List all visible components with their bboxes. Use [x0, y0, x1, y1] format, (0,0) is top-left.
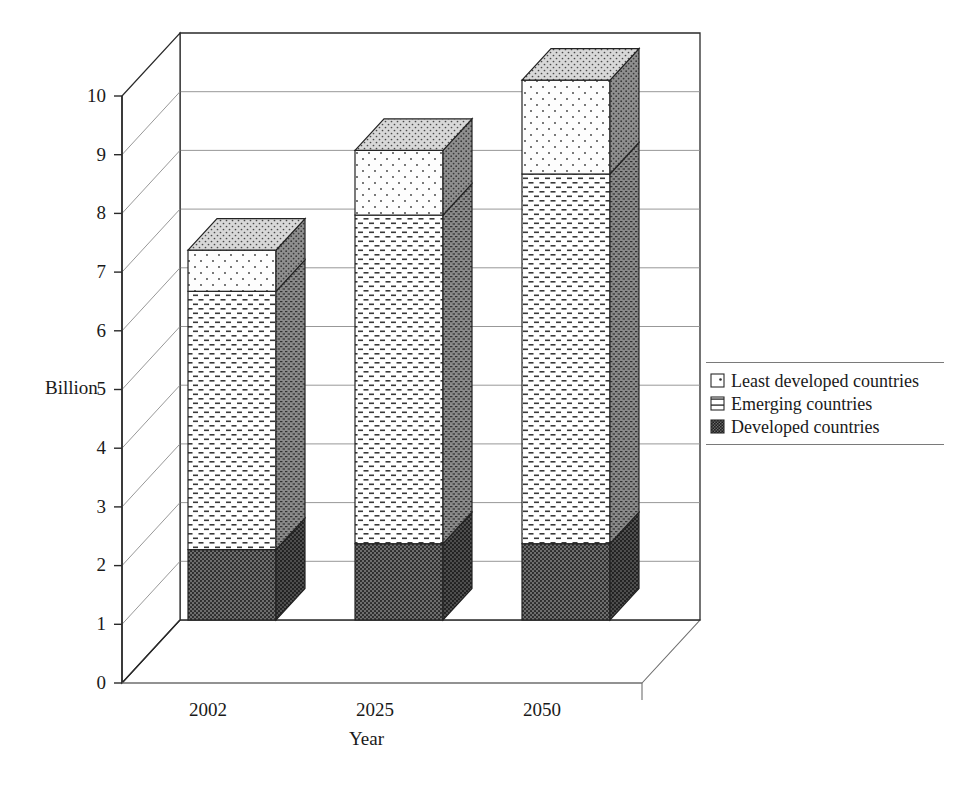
bar-2002-segment-developed[interactable] [188, 550, 276, 620]
chart-floor [122, 620, 700, 683]
bar-2002-segment-emerging-side [276, 260, 305, 550]
bar-2002[interactable] [188, 219, 305, 620]
y-tick-2: 2 [72, 554, 106, 576]
y-axis-title: Billion [45, 377, 98, 399]
y-tick-9: 9 [72, 144, 106, 166]
x-category-label-2050: 2050 [497, 699, 587, 721]
legend-label-emerging-countries: Emerging countries [731, 395, 872, 413]
bar-2025-segment-least-developed[interactable] [355, 150, 443, 215]
bar-2025-segment-emerging-side [443, 184, 472, 544]
legend-item-emerging-countries[interactable]: Emerging countries [706, 392, 944, 415]
bar-2025-segment-emerging[interactable] [355, 215, 443, 544]
y-tick-8: 8 [72, 202, 106, 224]
bar-2050-segment-emerging[interactable] [522, 174, 610, 544]
bar-2050[interactable] [522, 49, 639, 620]
bar-2050-segment-least-developed[interactable] [522, 80, 610, 174]
x-category-label-2002: 2002 [163, 699, 253, 721]
bar-2050-segment-emerging-side [610, 143, 639, 544]
y-tick-10: 10 [72, 85, 106, 107]
bar-2025[interactable] [355, 119, 472, 620]
y-axis [114, 96, 122, 683]
y-tick-7: 7 [72, 261, 106, 283]
x-axis [122, 683, 642, 700]
x-category-label-2025: 2025 [330, 699, 420, 721]
y-tick-1: 1 [72, 613, 106, 635]
legend-label-least-developed-countries: Least developed countries [731, 372, 919, 390]
y-tick-4: 4 [72, 437, 106, 459]
bar-2025-segment-developed[interactable] [355, 544, 443, 620]
population-stacked-column-chart: 10 9 8 7 6 5 4 3 2 1 0 Billion Year 2002… [0, 0, 968, 788]
legend-item-least-developed-countries[interactable]: Least developed countries [706, 369, 944, 392]
bar-2002-segment-least-developed[interactable] [188, 250, 276, 291]
x-axis-title: Year [349, 728, 384, 750]
y-tick-6: 6 [72, 320, 106, 342]
y-tick-3: 3 [72, 496, 106, 518]
legend-item-developed-countries[interactable]: Developed countries [706, 415, 944, 438]
left-side-wall [122, 33, 180, 683]
chart-legend: Least developed countries Emerging count… [706, 362, 944, 445]
bar-2002-segment-emerging[interactable] [188, 291, 276, 549]
bar-2050-segment-developed[interactable] [522, 544, 610, 620]
y-tick-0: 0 [72, 672, 106, 694]
legend-label-developed-countries: Developed countries [731, 418, 879, 436]
